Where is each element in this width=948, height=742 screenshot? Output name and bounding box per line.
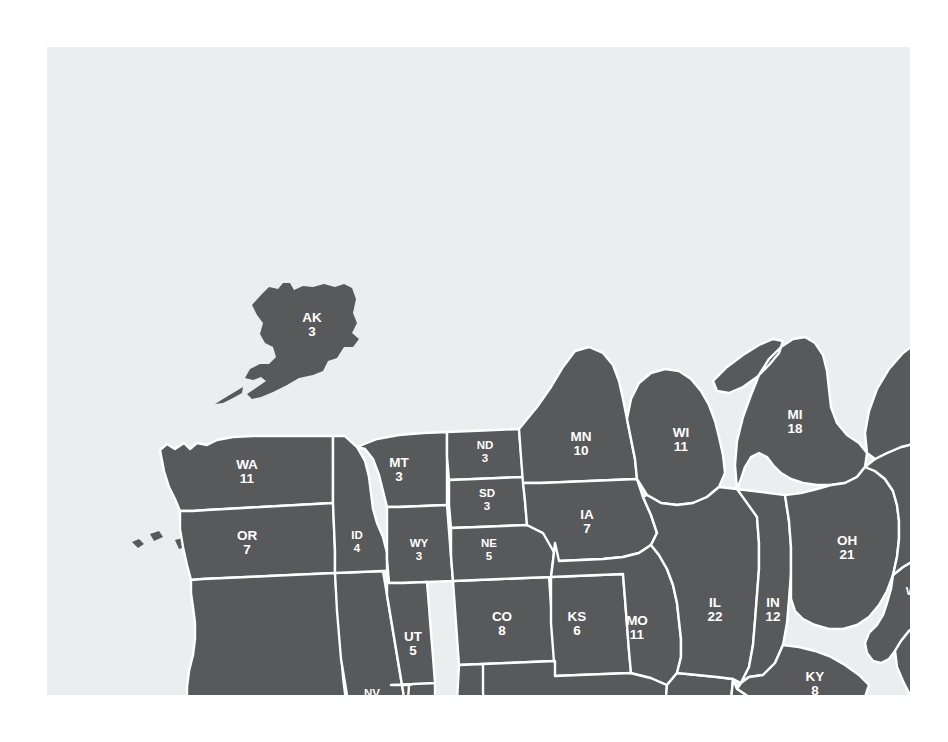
state-label-AK-abbr: AK	[302, 310, 322, 325]
state-label-UT-abbr: UT	[404, 629, 423, 644]
state-label-OK-abbr: OK	[557, 693, 578, 695]
state-label-OR-votes: 7	[243, 542, 251, 557]
state-label-MI-votes: 18	[787, 421, 803, 436]
state-label-WI-abbr: WI	[673, 425, 690, 440]
state-label-IN-votes: 12	[765, 609, 780, 624]
state-label-ID-votes: 4	[354, 542, 361, 554]
state-region-NY[interactable]	[865, 329, 910, 459]
state-label-AK-votes: 3	[308, 324, 316, 339]
state-label-KY-abbr: KY	[806, 669, 825, 684]
state-label-IA-abbr: IA	[580, 507, 594, 522]
state-label-OR-abbr: OR	[237, 528, 258, 543]
state-label-MN-abbr: MN	[571, 429, 592, 444]
state-label-SD-votes: 3	[484, 500, 490, 512]
state-label-MO-abbr: MO	[626, 613, 648, 628]
state-label-OH-abbr: OH	[837, 533, 857, 548]
state-label-MO-votes: 11	[630, 627, 645, 642]
state-region-OR[interactable]	[180, 503, 335, 580]
us-electoral-map: AK 3 HI 4 WA 11 OR 7 CA 54 NV 4 ID 4	[47, 47, 910, 695]
state-label-UT-votes: 5	[409, 643, 417, 658]
state-label-WA-abbr: WA	[236, 457, 258, 472]
state-label-IA-votes: 7	[583, 521, 591, 536]
state-label-ND-abbr: ND	[477, 439, 494, 451]
state-label-NV-abbr: NV	[364, 687, 380, 695]
state-label-SD-abbr: SD	[479, 487, 495, 499]
state-label-IN-abbr: IN	[766, 595, 780, 610]
state-label-KY-votes: 8	[811, 683, 819, 695]
state-label-KS-votes: 6	[573, 623, 581, 638]
state-region-AK[interactable]	[215, 283, 359, 404]
state-label-WY-abbr: WY	[410, 537, 429, 549]
state-region-KS[interactable]	[551, 574, 631, 676]
state-label-WI-votes: 11	[674, 439, 689, 454]
figure-canvas: AK 3 HI 4 WA 11 OR 7 CA 54 NV 4 ID 4	[0, 0, 948, 742]
state-label-OH-votes: 21	[839, 547, 855, 562]
state-label-WA-votes: 11	[240, 471, 255, 486]
state-label-WV-abbr: WV	[906, 585, 910, 597]
state-label-IL-votes: 22	[707, 609, 722, 624]
state-region-NE[interactable]	[451, 525, 555, 581]
state-label-ND-votes: 3	[482, 452, 488, 464]
state-label-IL-abbr: IL	[709, 595, 721, 610]
state-label-ID-abbr: ID	[351, 529, 363, 541]
state-label-MI-abbr: MI	[788, 407, 803, 422]
state-label-KS-abbr: KS	[568, 609, 587, 624]
state-label-WY-votes: 3	[416, 550, 422, 562]
state-label-CO-abbr: CO	[492, 609, 512, 624]
state-region-CA[interactable]	[187, 573, 352, 695]
state-label-NE-votes: 5	[486, 550, 493, 562]
state-label-NE-abbr: NE	[481, 537, 497, 549]
state-label-MT-votes: 3	[395, 469, 403, 484]
state-region-MN[interactable]	[519, 347, 637, 483]
state-label-MN-votes: 10	[573, 443, 588, 458]
state-label-CO-votes: 8	[498, 623, 506, 638]
state-label-MT-abbr: MT	[389, 455, 409, 470]
